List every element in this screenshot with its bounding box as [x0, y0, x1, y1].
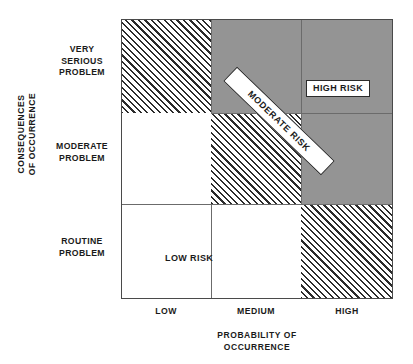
- matrix-cell-routine-low: [121, 204, 211, 299]
- zone-label-high-risk: HIGH RISK: [306, 80, 370, 97]
- risk-matrix-grid: HIGH RISK MODERATE RISK LOW RISK: [121, 19, 393, 299]
- x-category-label-medium: MEDIUM: [211, 306, 301, 316]
- gridline-horizontal-bottom: [121, 204, 393, 205]
- zone-label-low-risk: LOW RISK: [165, 253, 213, 263]
- risk-matrix-figure: CONSEQUENCES OF OCCURRENCE VERY SERIOUS …: [0, 0, 413, 364]
- y-axis-title: CONSEQUENCES OF OCCURRENCE: [16, 59, 38, 209]
- gridline-vertical-medium-high: [301, 19, 302, 204]
- matrix-cell-routine-high: [301, 204, 393, 299]
- gridline-horizontal-top: [211, 113, 393, 114]
- y-category-label-very-serious: VERY SERIOUS PROBLEM: [48, 44, 116, 79]
- matrix-cell-very-serious-low: [121, 19, 211, 113]
- x-category-label-high: HIGH: [301, 306, 393, 316]
- x-category-label-low: LOW: [121, 306, 211, 316]
- matrix-cell-very-serious-high: [301, 19, 393, 113]
- gridline-vertical-low-medium-top: [211, 19, 212, 113]
- matrix-cell-routine-medium: [211, 204, 301, 299]
- y-category-label-moderate: MODERATE PROBLEM: [48, 141, 116, 164]
- matrix-cell-moderate-low: [121, 113, 211, 204]
- y-category-label-routine: ROUTINE PROBLEM: [48, 236, 116, 259]
- x-axis-title: PROBABILITY OF OCCURRENCE: [121, 330, 393, 353]
- gridline-vertical-low-medium-bottom: [211, 204, 212, 299]
